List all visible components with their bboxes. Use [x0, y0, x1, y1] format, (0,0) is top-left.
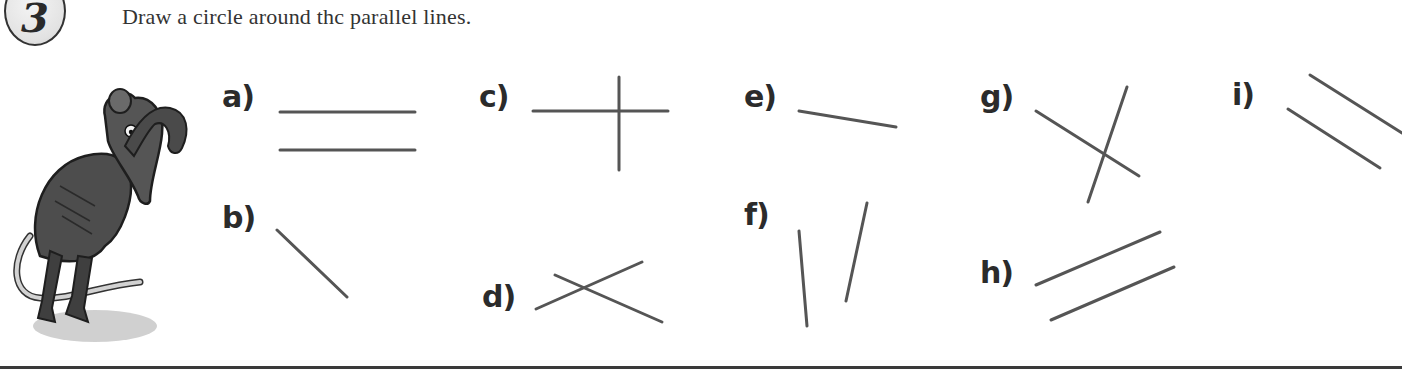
line-figure-d[interactable]	[536, 262, 662, 322]
line-segment	[1088, 87, 1127, 202]
line-figure-c[interactable]	[533, 77, 668, 170]
line-figure-h[interactable]	[1036, 232, 1174, 320]
bottom-rule	[0, 366, 1402, 369]
line-segment	[1036, 232, 1160, 285]
line-segment	[1288, 109, 1380, 168]
line-figures	[0, 0, 1402, 370]
line-figure-b[interactable]	[277, 230, 347, 297]
line-figure-i[interactable]	[1288, 75, 1402, 168]
line-segment	[1036, 111, 1139, 176]
line-segment	[277, 230, 347, 297]
line-figure-e[interactable]	[799, 111, 896, 127]
line-segment	[846, 203, 867, 301]
line-segment	[1310, 75, 1402, 133]
line-segment	[1051, 267, 1174, 320]
line-segment	[799, 231, 807, 326]
line-figure-a[interactable]	[280, 112, 415, 150]
line-segment	[799, 111, 896, 127]
line-figure-g[interactable]	[1036, 87, 1139, 202]
line-figure-f[interactable]	[799, 203, 867, 326]
line-segment	[555, 275, 662, 322]
line-segment	[536, 262, 642, 309]
